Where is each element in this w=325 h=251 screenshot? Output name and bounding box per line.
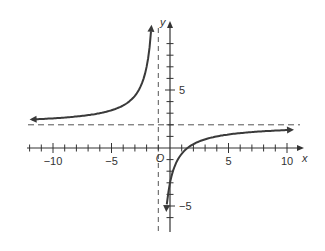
right-branch-curve bbox=[167, 130, 291, 204]
left-arrow-icon bbox=[30, 116, 37, 123]
x-tick-label: 5 bbox=[225, 155, 231, 167]
right-arrow-icon bbox=[287, 127, 294, 134]
left-branch-curve bbox=[32, 31, 151, 119]
x-axis-arrow-icon bbox=[297, 145, 304, 151]
x-tick-label: −10 bbox=[44, 155, 63, 167]
y-axis-label: y bbox=[159, 16, 167, 28]
tick-labels: −10−55105−5Oxy bbox=[44, 16, 308, 212]
y-axis-arrow-icon bbox=[167, 21, 173, 28]
x-axis-label: x bbox=[301, 152, 308, 164]
axes bbox=[27, 21, 304, 232]
graph: −10−55105−5Oxy bbox=[0, 0, 325, 251]
down-arrow-icon bbox=[163, 205, 170, 212]
x-tick-label: −5 bbox=[105, 155, 118, 167]
x-tick-label: 10 bbox=[281, 155, 293, 167]
up-arrow-icon bbox=[147, 25, 154, 32]
curves bbox=[30, 25, 294, 212]
y-tick-label: −5 bbox=[179, 200, 192, 212]
asymptotes bbox=[28, 28, 300, 232]
y-tick-label: 5 bbox=[179, 84, 185, 96]
origin-label: O bbox=[156, 152, 165, 164]
